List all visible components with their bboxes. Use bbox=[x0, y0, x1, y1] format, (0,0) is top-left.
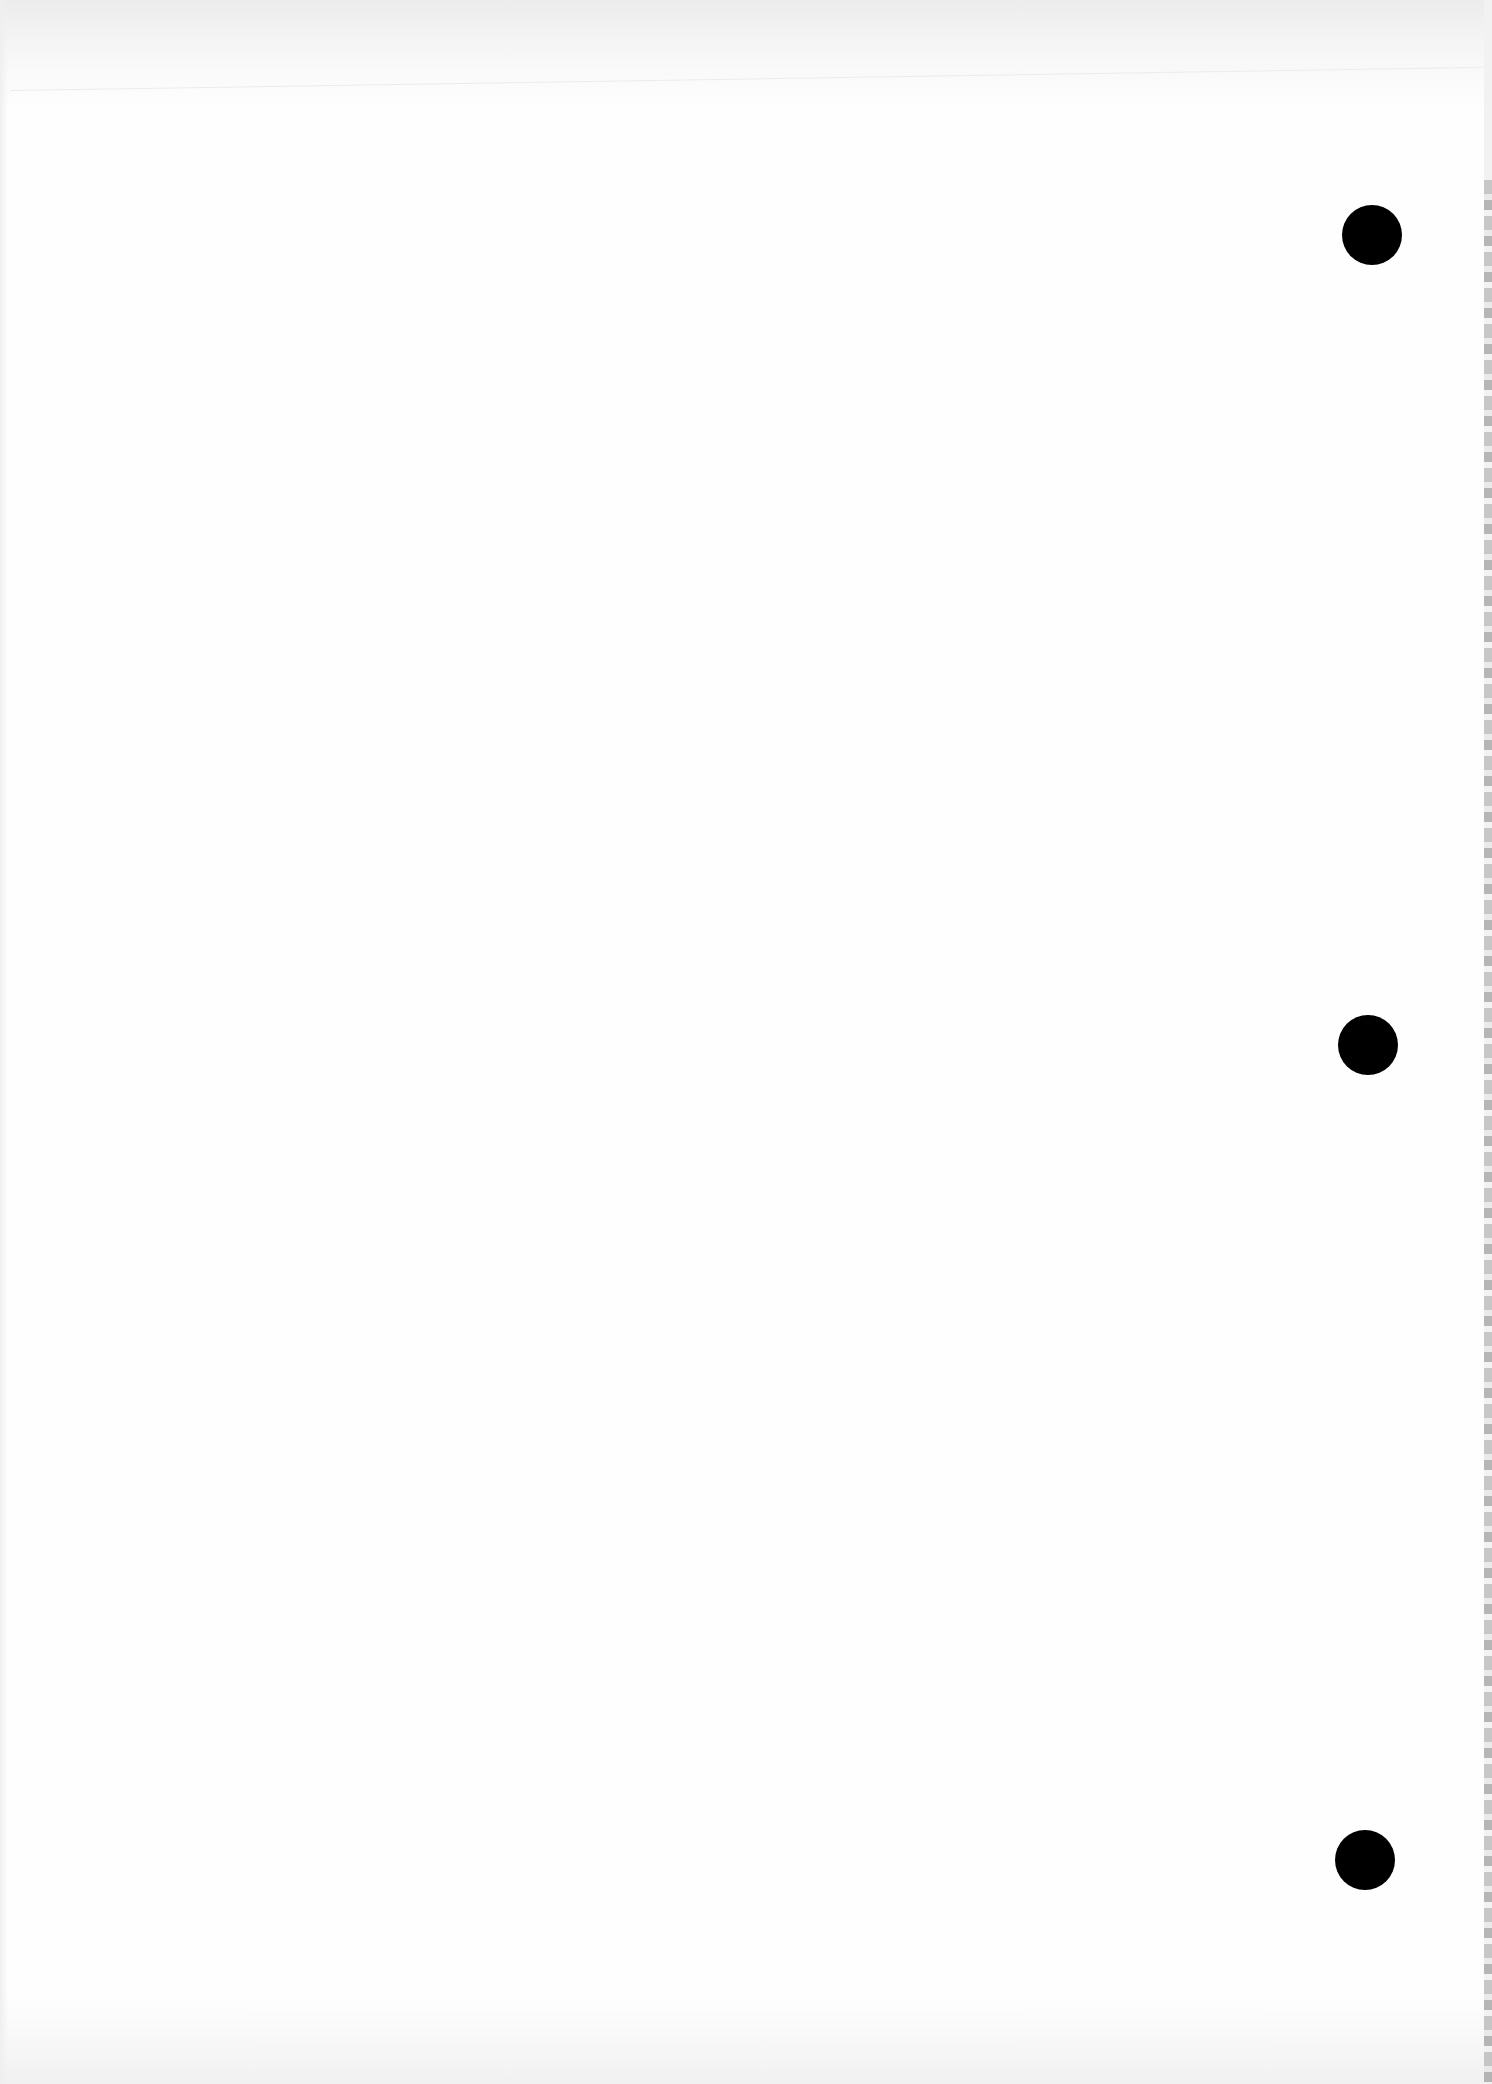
punch-hole-middle bbox=[1338, 1015, 1398, 1075]
page-edge-strip-top bbox=[1484, 0, 1492, 180]
scan-shadow-left bbox=[0, 0, 8, 2084]
punch-hole-top bbox=[1342, 205, 1402, 265]
scan-shadow-bottom bbox=[0, 1994, 1492, 2084]
scan-shadow-top bbox=[0, 0, 1492, 110]
page-edge-strip bbox=[1484, 0, 1492, 2084]
punch-hole-bottom bbox=[1335, 1830, 1395, 1890]
scanned-page bbox=[0, 0, 1492, 2084]
